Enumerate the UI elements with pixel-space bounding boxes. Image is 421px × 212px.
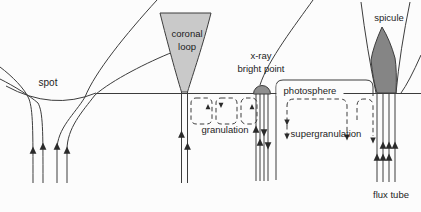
down-arrow bbox=[370, 138, 375, 144]
up-arrow bbox=[54, 143, 61, 150]
down-arrow bbox=[219, 103, 224, 108]
up-arrow bbox=[178, 131, 185, 138]
up-arrow bbox=[253, 126, 260, 133]
down-arrow bbox=[261, 129, 268, 136]
up-arrow bbox=[64, 147, 71, 154]
granulation-label: granulation bbox=[201, 124, 248, 135]
up-arrow bbox=[206, 104, 211, 109]
coronal-loop-label-line1: coronal bbox=[171, 28, 202, 39]
sunspot-field-lines bbox=[0, 0, 173, 183]
spicule-flux-tube-lines bbox=[377, 94, 395, 182]
up-arrow bbox=[30, 147, 37, 154]
spicule-label: spicule bbox=[374, 12, 404, 23]
up-arrow bbox=[392, 142, 399, 149]
xray-label-line2: bright point bbox=[237, 63, 284, 74]
solar-diagram: spot coronal loop x-ray bright point pho… bbox=[0, 0, 421, 212]
up-arrow bbox=[184, 143, 191, 150]
up-arrow bbox=[380, 142, 387, 149]
up-arrow bbox=[386, 154, 393, 161]
xray-label-line1: x-ray bbox=[250, 50, 271, 61]
coronal-loop-label-line2: loop bbox=[178, 41, 196, 52]
solar-diagram-canvas: spot coronal loop x-ray bright point pho… bbox=[0, 0, 421, 212]
photosphere-label: photosphere bbox=[284, 85, 337, 96]
up-arrow bbox=[380, 154, 387, 161]
xray-bright-point-legs bbox=[256, 94, 268, 181]
up-arrow bbox=[386, 142, 393, 149]
spicule-shape bbox=[371, 27, 396, 93]
coronal-loop-funnel bbox=[160, 13, 211, 92]
up-arrow bbox=[250, 104, 255, 109]
spot-label: spot bbox=[39, 77, 58, 88]
up-arrow bbox=[40, 143, 47, 150]
up-arrow bbox=[257, 139, 264, 146]
xray-bright-point-dome bbox=[254, 86, 271, 95]
down-arrow bbox=[284, 134, 289, 140]
down-arrow bbox=[265, 142, 272, 149]
flux-tube-label: flux tube bbox=[373, 189, 409, 200]
spicule-region bbox=[361, 2, 421, 182]
granulation-cells bbox=[191, 98, 257, 124]
down-arrow bbox=[284, 120, 289, 126]
up-arrow bbox=[374, 154, 381, 161]
supergranulation-label: supergranulation bbox=[291, 128, 362, 139]
